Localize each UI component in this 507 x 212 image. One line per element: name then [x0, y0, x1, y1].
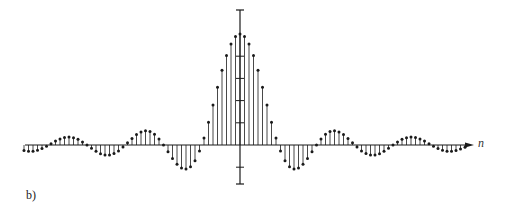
stem-marker-dot [419, 138, 422, 141]
stem-marker-dot [306, 157, 309, 160]
stem-marker-dot [369, 153, 372, 156]
stem-marker-dot [113, 152, 116, 155]
stem-marker-dot [162, 144, 165, 147]
stem-marker-dot [450, 150, 453, 153]
stem-marker-dot [257, 69, 260, 72]
stem-marker-dot [59, 138, 62, 141]
stem-marker-dot [455, 149, 458, 152]
stem-marker-dot [77, 138, 80, 141]
stem-marker-dot [23, 149, 26, 152]
stem-marker-dot [81, 140, 84, 143]
stem-marker-dot [383, 150, 386, 153]
stem-marker-dot [432, 145, 435, 148]
stem-marker-dot [212, 104, 215, 107]
stem-marker-dot [329, 130, 332, 133]
stem-marker-dot [234, 35, 237, 38]
stem-marker-dot [68, 136, 71, 139]
stem-marker-dot [149, 130, 152, 133]
stem-marker-dot [207, 121, 210, 124]
stem-marker-dot [396, 140, 399, 143]
stem-plot [0, 0, 507, 212]
stem-marker-dot [297, 166, 300, 169]
stem-marker-dot [387, 147, 390, 150]
panel-label: b) [26, 188, 36, 203]
stem-marker-dot [437, 147, 440, 150]
stem-marker-dot [423, 140, 426, 143]
stem-marker-dot [243, 35, 246, 38]
stem-marker-dot [428, 142, 431, 145]
stem-marker-dot [414, 136, 417, 139]
stem-marker-dot [117, 149, 120, 152]
stem-marker-dot [95, 150, 98, 153]
stem-marker-dot [41, 147, 44, 150]
x-axis-label: n [478, 136, 484, 151]
stem-marker-dot [320, 138, 323, 141]
stem-marker-dot [27, 150, 30, 153]
stem-marker-dot [279, 150, 282, 153]
stem-marker-dot [311, 150, 314, 153]
stem-marker-dot [365, 152, 368, 155]
stem-marker-dot [135, 133, 138, 136]
stem-marker-dot [239, 33, 242, 36]
stem-marker-dot [459, 148, 462, 151]
stem-marker-dot [198, 150, 201, 153]
stem-marker-dot [302, 163, 305, 166]
stem-marker-dot [342, 133, 345, 136]
stem-marker-dot [167, 150, 170, 153]
stem-marker-dot [293, 168, 296, 171]
stem-marker-dot [99, 152, 102, 155]
stem-marker-dot [36, 149, 39, 152]
stem-marker-dot [180, 166, 183, 169]
axes [25, 10, 474, 184]
stem-marker-dot [54, 140, 57, 143]
stem-marker-dot [90, 147, 93, 150]
stem-marker-dot [333, 129, 336, 132]
stem-marker-dot [441, 149, 444, 152]
stem-marker-dot [324, 133, 327, 136]
stem-marker-dot [189, 165, 192, 168]
stem-marker-dot [131, 137, 134, 140]
stem-marker-dot [252, 54, 255, 57]
stem-marker-dot [378, 152, 381, 155]
stem-marker-dot [351, 141, 354, 144]
stem-marker-dot [63, 136, 66, 139]
stem-marker-dot [392, 144, 395, 147]
stem-marker-dot [176, 163, 179, 166]
stem-marker-dot [360, 149, 363, 152]
stem-marker-dot [108, 153, 111, 156]
stem-marker-dot [347, 137, 350, 140]
stem-marker-dot [122, 146, 125, 149]
stem-marker-dot [464, 146, 467, 149]
stem-marker-dot [140, 130, 143, 133]
stem-marker-dot [32, 150, 35, 153]
stem-marker-dot [50, 142, 53, 145]
stem-marker-dot [225, 54, 228, 57]
stem-marker-dot [270, 121, 273, 124]
stem-marker-dot [405, 136, 408, 139]
stem-marker-dot [288, 165, 291, 168]
stem-marker-dot [446, 150, 449, 153]
stem-marker-dot [410, 136, 413, 139]
stem-marker-dot [230, 42, 233, 45]
stem-marker-dot [401, 138, 404, 141]
stem-marker-dot [158, 138, 161, 141]
stem-marker-dot [221, 69, 224, 72]
stem-marker-dot [171, 157, 174, 160]
stem-marker-dot [104, 153, 107, 156]
stem-marker-dot [185, 168, 188, 171]
stem-marker-dot [216, 86, 219, 89]
stem-marker-dot [144, 129, 147, 132]
stem-marker-dot [72, 136, 75, 139]
stem-marker-dot [203, 137, 206, 140]
stem-marker-dot [266, 104, 269, 107]
stem-marker-dot [338, 130, 341, 133]
stem-marker-dot [356, 146, 359, 149]
stem-marker-dot [86, 144, 89, 147]
stem-marker-dot [284, 159, 287, 162]
stem-marker-dot [153, 133, 156, 136]
stem-marker-dot [248, 42, 251, 45]
stem-marker-dot [261, 86, 264, 89]
stem-marker-dot [275, 137, 278, 140]
stem-marker-dot [374, 153, 377, 156]
stem-marker-dot [45, 145, 48, 148]
